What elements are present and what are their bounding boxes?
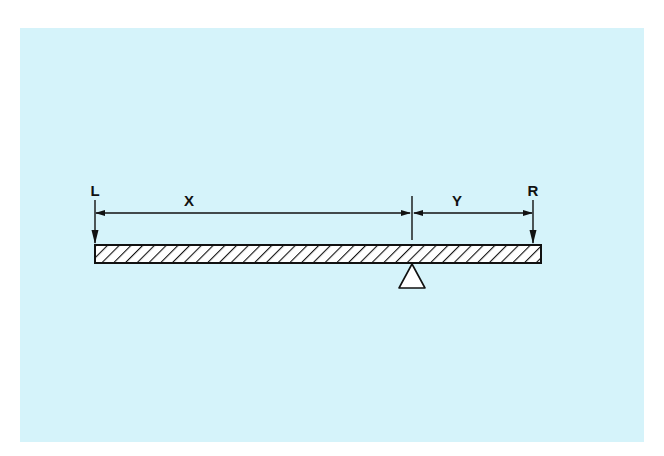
lever-diagram	[0, 0, 664, 456]
label-left-force: L	[90, 183, 99, 198]
fulcrum-triangle-icon	[399, 264, 425, 288]
label-distance-x: X	[184, 193, 194, 208]
hatched-beam	[95, 245, 541, 263]
label-distance-y: Y	[452, 193, 462, 208]
label-right-force: R	[528, 183, 539, 198]
